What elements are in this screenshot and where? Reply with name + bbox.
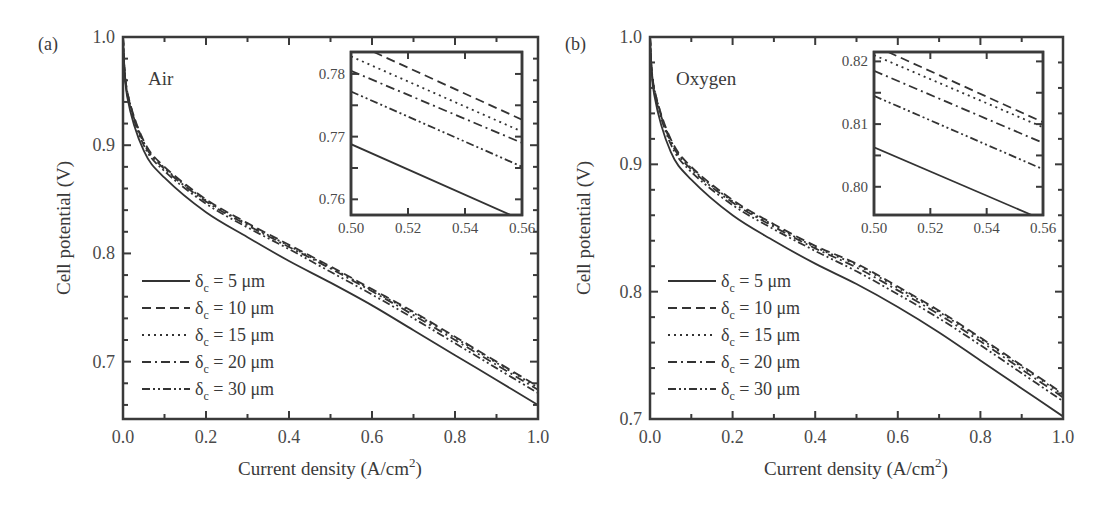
legend-label: δc = 10 μm [195,298,274,322]
legend-label: δc = 15 μm [721,325,800,349]
x-tick-label: 0.6 [887,427,910,447]
legend-label: δc = 5 μm [721,271,791,295]
panel-b: (b)0.00.20.40.60.81.00.70.80.91.0OxygenC… [565,27,1074,480]
legend-label: δc = 10 μm [721,298,800,322]
inset-x-tick-label: 0.54 [974,220,1001,236]
inset-x-tick-label: 0.52 [395,220,421,236]
y-axis-title: Cell potential (V) [53,161,75,295]
x-axis-title: Current density (A/cm2) [238,455,422,480]
gas-annotation: Air [148,68,174,89]
y-tick-label: 0.7 [620,409,643,429]
inset-plot: 0.500.520.540.560.760.770.78 [319,52,536,236]
x-tick-label: 1.0 [1052,427,1075,447]
x-tick-label: 0.4 [278,427,301,447]
inset-y-tick-label: 0.81 [842,116,868,132]
legend: δc = 5 μmδc = 10 μmδc = 15 μmδc = 20 μmδ… [668,271,800,403]
y-tick-label: 0.9 [93,135,116,155]
x-tick-label: 0.2 [195,427,218,447]
x-tick-label: 0.0 [112,427,135,447]
inset-frame [351,52,522,215]
inset-x-tick-label: 0.54 [452,220,479,236]
legend-label: δc = 30 μm [195,379,274,403]
inset-y-tick-label: 0.82 [842,53,868,69]
x-tick-label: 0.8 [444,427,467,447]
legend-label: δc = 30 μm [721,379,800,403]
y-tick-label: 0.9 [620,154,643,174]
inset-plot: 0.500.520.540.560.800.810.82 [842,52,1057,236]
inset-x-tick-label: 0.50 [861,220,887,236]
inset-x-tick-label: 0.56 [1030,220,1057,236]
legend: δc = 5 μmδc = 10 μmδc = 15 μmδc = 20 μmδ… [142,271,274,403]
inset-x-tick-label: 0.50 [338,220,364,236]
panel-label: (a) [38,34,58,55]
x-axis-title: Current density (A/cm2) [764,455,948,480]
x-tick-label: 0.8 [969,427,992,447]
panel-label: (b) [565,34,586,55]
figure: (a)0.00.20.40.60.81.00.70.80.91.0AirCurr… [0,0,1118,505]
x-tick-label: 0.2 [721,427,744,447]
x-tick-label: 1.0 [527,427,550,447]
y-tick-label: 1.0 [93,27,116,47]
y-axis-title: Cell potential (V) [573,161,595,295]
gas-annotation: Oxygen [676,68,737,89]
legend-label: δc = 15 μm [195,325,274,349]
panel-a: (a)0.00.20.40.60.81.00.70.80.91.0AirCurr… [38,27,549,480]
inset-y-tick-label: 0.77 [319,129,346,145]
inset-y-tick-label: 0.76 [319,191,346,207]
x-tick-label: 0.6 [361,427,384,447]
inset-y-tick-label: 0.78 [319,66,345,82]
inset-x-tick-label: 0.52 [917,220,943,236]
inset-y-tick-label: 0.80 [842,179,868,195]
inset-frame [874,52,1043,215]
legend-label: δc = 5 μm [195,271,265,295]
y-tick-label: 0.7 [93,352,116,372]
y-tick-label: 1.0 [620,27,643,47]
legend-label: δc = 20 μm [195,352,274,376]
x-tick-label: 0.0 [639,427,662,447]
y-tick-label: 0.8 [620,282,643,302]
y-tick-label: 0.8 [93,243,116,263]
legend-label: δc = 20 μm [721,352,800,376]
inset-x-tick-label: 0.56 [509,220,536,236]
x-tick-label: 0.4 [804,427,827,447]
